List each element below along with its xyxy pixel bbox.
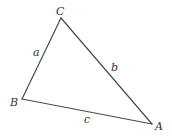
vertex-label-a: A [154,120,163,133]
vertex-label-c: C [56,5,65,18]
side-label-a: a [33,46,40,59]
side-label-c: c [84,113,90,126]
side-a-line [22,18,61,99]
vertex-label-b: B [9,96,18,109]
triangle-svg: A B C a b c [0,0,172,137]
triangle-diagram: A B C a b c [0,0,172,137]
side-label-b: b [111,61,118,74]
side-b-line [61,18,152,124]
